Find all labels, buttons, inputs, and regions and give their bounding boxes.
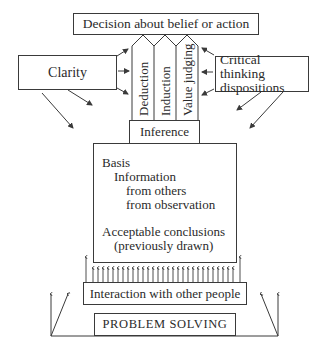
inference-box: Inference	[129, 120, 200, 144]
problem-solving-label: PROBLEM SOLVING	[103, 317, 228, 332]
pillar-value-judging-label: Value judging	[180, 43, 196, 116]
inference-label: Inference	[140, 124, 189, 140]
pillar-deduction-label: Deduction	[136, 62, 152, 116]
clarity-box: Clarity	[18, 55, 117, 90]
problem-solving-box: PROBLEM SOLVING	[94, 313, 236, 336]
basis-from-observation: from observation	[126, 197, 215, 213]
pillar-induction-label: Induction	[158, 66, 174, 116]
basis-previously-drawn: (previously drawn)	[114, 238, 213, 254]
clarity-label: Clarity	[48, 65, 87, 81]
dispositions-line-1: Critical thinking	[220, 53, 308, 81]
dispositions-box: Critical thinking dispositions	[215, 56, 309, 92]
decision-box: Decision about belief or action	[73, 13, 259, 35]
critical-thinking-diagram: Decision about belief or action Deductio…	[0, 0, 323, 348]
decision-label: Decision about belief or action	[83, 16, 249, 32]
interaction-box: Interaction with other people	[83, 282, 247, 305]
interaction-label: Interaction with other people	[90, 286, 241, 302]
dispositions-line-2: dispositions	[220, 81, 308, 95]
basis-box: Basis Information from others from obser…	[93, 143, 237, 263]
